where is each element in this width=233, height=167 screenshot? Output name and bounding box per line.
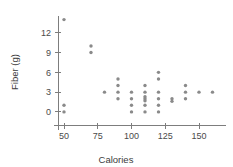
data-point [116, 84, 119, 87]
data-point [211, 90, 214, 93]
data-point [130, 90, 133, 93]
data-point [130, 97, 133, 100]
data-point [143, 110, 146, 113]
data-point [157, 90, 160, 93]
x-tick-label: 75 [93, 131, 103, 141]
data-point [62, 18, 65, 21]
x-axis-group: 5075100125150 [54, 123, 226, 141]
scatter-plot-figure: 036912 5075100125150 Calories Fiber (g) [0, 0, 233, 167]
data-point [143, 104, 146, 107]
data-point [157, 97, 160, 100]
x-tick-label: 125 [158, 131, 173, 141]
y-tick-label: 0 [46, 107, 51, 117]
data-point [184, 97, 187, 100]
x-tick-label: 50 [59, 131, 69, 141]
data-point [130, 110, 133, 113]
data-points-group [62, 18, 214, 114]
x-axis-title: Calories [99, 154, 134, 165]
data-point [143, 84, 146, 87]
data-point [62, 110, 65, 113]
data-point [62, 104, 65, 107]
data-point [157, 110, 160, 113]
y-axis-title: Fiber (g) [9, 54, 20, 90]
x-tick-label: 100 [124, 131, 139, 141]
y-tick-label: 12 [41, 28, 51, 38]
data-point [170, 100, 173, 103]
data-point [157, 104, 160, 107]
data-point [130, 104, 133, 107]
x-tick-label: 150 [191, 131, 206, 141]
data-point [89, 44, 92, 47]
data-point [103, 90, 106, 93]
data-point [89, 51, 92, 54]
data-point [116, 90, 119, 93]
data-point [143, 90, 146, 93]
data-point [157, 71, 160, 74]
data-point [184, 90, 187, 93]
data-point [157, 77, 160, 80]
y-tick-label: 3 [46, 87, 51, 97]
y-axis-group: 036912 [41, 16, 61, 130]
data-point [143, 99, 146, 102]
data-point [116, 77, 119, 80]
data-point [184, 84, 187, 87]
y-tick-label: 6 [46, 68, 51, 78]
data-point [197, 90, 200, 93]
y-tick-label: 9 [46, 48, 51, 58]
data-point [116, 97, 119, 100]
plot-canvas: 036912 5075100125150 Calories Fiber (g) [0, 0, 233, 167]
